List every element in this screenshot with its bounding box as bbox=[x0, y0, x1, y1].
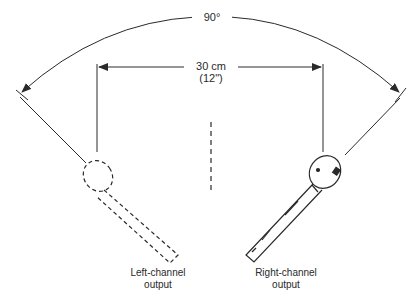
left-mic-caption: Left-channel output bbox=[113, 267, 203, 291]
right-caption-line1: Right-channel bbox=[241, 267, 331, 279]
angle-arc-right bbox=[230, 17, 399, 92]
left-caption-line1: Left-channel bbox=[113, 267, 203, 279]
distance-label: 30 cm (12") bbox=[186, 60, 236, 84]
angle-arc bbox=[22, 17, 196, 92]
distance-imperial: (12") bbox=[186, 72, 236, 84]
right-mic bbox=[246, 149, 347, 262]
right-mic-axis bbox=[345, 98, 400, 155]
left-mic-outline bbox=[77, 155, 178, 263]
diagram-drawing bbox=[0, 0, 418, 293]
left-mic-axis bbox=[20, 97, 86, 163]
stereo-mic-diagram: 90° 30 cm (12") Left-channel output Righ… bbox=[0, 0, 418, 293]
right-mic-caption: Right-channel output bbox=[241, 267, 331, 291]
distance-metric: 30 cm bbox=[186, 60, 236, 72]
right-caption-line2: output bbox=[241, 279, 331, 291]
left-caption-line2: output bbox=[113, 279, 203, 291]
angle-label: 90° bbox=[192, 11, 232, 23]
